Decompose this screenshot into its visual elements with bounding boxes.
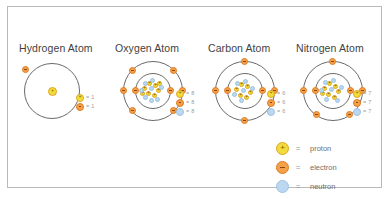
- atom-counts-hydrogen: = 1 = 1: [76, 93, 94, 111]
- neutron-particle: [331, 78, 336, 83]
- atom-counts-oxygen: = 8 = 8 = 8: [176, 89, 194, 116]
- electron-particle: [346, 111, 353, 118]
- equals-sign: =: [186, 109, 189, 115]
- electron-count: 6: [282, 100, 285, 106]
- atom-title-carbon: Carbon Atom: [208, 42, 270, 54]
- neutron-icon: [276, 180, 289, 193]
- count-row-proton: = 7: [353, 89, 371, 98]
- proton-particle: [244, 95, 249, 100]
- neutron-particle: [149, 98, 154, 103]
- electron-particle: [224, 87, 231, 94]
- electron-particle: [313, 111, 320, 118]
- neutron-particle: [319, 88, 324, 93]
- neutron-particle: [323, 80, 328, 85]
- electron-icon: [353, 99, 361, 107]
- neutron-particle: [235, 81, 240, 86]
- electron-particle: [312, 87, 319, 94]
- count-row-electron: = 7: [353, 98, 371, 107]
- count-row-electron: = 1: [76, 102, 94, 111]
- count-row-proton: = 6: [267, 89, 285, 98]
- neutron-particle: [155, 97, 160, 102]
- electron-particle: [170, 67, 177, 74]
- electron-count: 8: [191, 100, 194, 106]
- count-row-electron: = 8: [176, 98, 194, 107]
- neutron-particle: [232, 92, 237, 97]
- neutron-icon: [353, 108, 361, 116]
- neutron-particle: [243, 79, 248, 84]
- equals-sign: =: [296, 164, 303, 172]
- main-legend: = proton = electron = neutron: [276, 139, 337, 196]
- neutron-particle: [329, 87, 334, 92]
- equals-sign: =: [363, 100, 366, 106]
- proton-icon: [267, 90, 275, 98]
- equals-sign: =: [296, 183, 303, 191]
- neutron-particle: [159, 85, 164, 90]
- proton-count: 7: [368, 91, 371, 97]
- equals-sign: =: [363, 91, 366, 97]
- equals-sign: =: [296, 145, 303, 153]
- equals-sign: =: [277, 91, 280, 97]
- electron-count: 7: [368, 100, 371, 106]
- equals-sign: =: [186, 91, 189, 97]
- neutron-count: 6: [282, 109, 285, 115]
- electron-particle: [259, 87, 266, 94]
- legend-label-neutron: neutron: [310, 183, 335, 191]
- neutron-particle: [324, 97, 329, 102]
- proton-icon: [276, 142, 289, 155]
- electron-particle: [129, 107, 136, 114]
- electron-particle: [241, 58, 248, 65]
- electron-particle: [329, 58, 336, 65]
- neutron-particle: [241, 88, 246, 93]
- equals-sign: =: [86, 95, 89, 101]
- count-row-neutron: = 6: [267, 107, 285, 116]
- legend-row-neutron: = neutron: [276, 177, 337, 196]
- equals-sign: =: [277, 109, 280, 115]
- electron-particle: [300, 87, 307, 94]
- proton-icon: [76, 94, 84, 102]
- neutron-particle: [143, 95, 148, 100]
- equals-sign: =: [186, 100, 189, 106]
- equals-sign: =: [86, 104, 89, 110]
- equals-sign: =: [277, 100, 280, 106]
- electron-icon: [76, 103, 84, 111]
- legend-label-electron: electron: [310, 164, 337, 172]
- neutron-count: 7: [368, 109, 371, 115]
- proton-particle: [48, 87, 57, 96]
- count-row-electron: = 6: [267, 98, 285, 107]
- electron-particle: [167, 87, 174, 94]
- atom-title-nitrogen: Nitrogen Atom: [296, 42, 364, 54]
- count-row-proton: = 8: [176, 89, 194, 98]
- atom-counts-nitrogen: = 7 = 7 = 7: [353, 89, 371, 116]
- electron-particle: [22, 66, 29, 73]
- electron-count: 1: [91, 104, 94, 110]
- electron-particle: [129, 67, 136, 74]
- proton-icon: [176, 90, 184, 98]
- proton-icon: [353, 90, 361, 98]
- neutron-icon: [267, 108, 275, 116]
- atom-hydrogen: [19, 59, 91, 121]
- count-row-neutron: = 8: [176, 107, 194, 116]
- neutron-particle: [143, 81, 148, 86]
- count-row-neutron: = 7: [353, 107, 371, 116]
- proton-count: 8: [191, 91, 194, 97]
- electron-particle: [212, 87, 219, 94]
- diagram-canvas: Hydrogen Atom = 1 = 1 Oxygen Atom: [7, 6, 382, 188]
- atom-counts-carbon: = 6 = 6 = 6: [267, 89, 285, 116]
- electron-icon: [276, 161, 289, 174]
- neutron-particle: [150, 78, 155, 83]
- legend-row-proton: = proton: [276, 139, 337, 158]
- proton-count: 1: [91, 95, 94, 101]
- legend-row-electron: = electron: [276, 158, 337, 177]
- equals-sign: =: [363, 109, 366, 115]
- neutron-particle: [239, 98, 244, 103]
- atom-title-oxygen: Oxygen Atom: [115, 42, 179, 54]
- neutron-icon: [176, 108, 184, 116]
- electron-particle: [132, 87, 139, 94]
- neutron-particle: [139, 88, 144, 93]
- count-row-proton: = 1: [76, 93, 94, 102]
- electron-icon: [176, 99, 184, 107]
- neutron-particle: [335, 98, 340, 103]
- proton-count: 6: [282, 91, 285, 97]
- neutron-particle: [339, 85, 344, 90]
- electron-icon: [267, 99, 275, 107]
